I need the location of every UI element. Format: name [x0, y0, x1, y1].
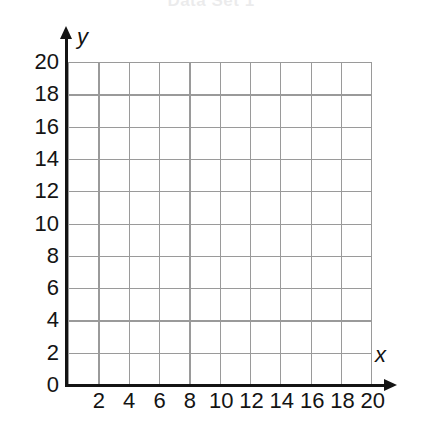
plot-grid [68, 62, 372, 385]
y-axis-line [65, 36, 68, 387]
y-tick-label: 10 [35, 213, 59, 235]
grid-lines [68, 62, 372, 385]
x-tick-label: 2 [93, 390, 105, 412]
page-title: Data Set 1 [0, 0, 422, 11]
y-tick-label: 2 [47, 342, 59, 364]
x-axis-line [66, 384, 385, 387]
x-tick-label: 20 [361, 390, 385, 412]
x-tick-label: 18 [330, 390, 354, 412]
x-tick-label: 12 [239, 390, 263, 412]
y-axis-arrow-icon [60, 26, 72, 39]
x-tick-label: 16 [300, 390, 324, 412]
y-tick-label: 8 [47, 245, 59, 267]
y-tick-label: 6 [47, 277, 59, 299]
x-tick-label: 10 [209, 390, 233, 412]
y-tick-label: 4 [47, 309, 59, 331]
x-tick-label: 6 [153, 390, 165, 412]
x-tick-label: 4 [123, 390, 135, 412]
y-axis-label: y [77, 24, 88, 50]
y-tick-label: 20 [35, 51, 59, 73]
x-axis-label: x [375, 342, 386, 368]
x-axis-arrow-icon [384, 379, 397, 391]
y-tick-label: 18 [35, 83, 59, 105]
y-tick-label: 14 [35, 148, 59, 170]
y-tick-label: 12 [35, 180, 59, 202]
y-tick-label-origin: 0 [47, 374, 59, 396]
y-tick-label: 16 [35, 116, 59, 138]
x-tick-label: 14 [270, 390, 294, 412]
x-tick-label: 8 [184, 390, 196, 412]
